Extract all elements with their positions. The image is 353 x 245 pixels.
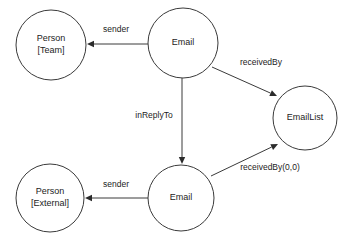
node-label-line1: Person [37, 33, 66, 43]
edge-label-sender-top: sender [103, 24, 129, 34]
node-email-list[interactable]: EmailList [273, 86, 337, 150]
edge-receivedby-00[interactable]: receivedBy(0,0) [211, 144, 300, 176]
edge-label-inreplyto: inReplyTo [135, 110, 173, 120]
edge-label-sender-bottom: sender [103, 179, 129, 189]
edge-label-receivedby: receivedBy [240, 57, 283, 67]
edge-receivedby[interactable]: receivedBy [212, 57, 283, 96]
node-email-top[interactable]: Email [148, 8, 218, 78]
arrowhead-icon [87, 41, 94, 47]
node-label-line1: Email [170, 192, 193, 202]
edge-sender-bottom[interactable]: sender [85, 179, 148, 201]
node-label-line2: [External] [31, 198, 69, 208]
node-label-line1: EmailList [287, 112, 324, 122]
edge-sender-top[interactable]: sender [87, 24, 148, 47]
node-person-team[interactable]: Person [Team] [16, 10, 86, 80]
entity-relationship-diagram: sender receivedBy inReplyTo sender recei… [0, 0, 353, 245]
node-label-line2: [Team] [37, 45, 64, 55]
node-label-line1: Person [36, 186, 65, 196]
arrowhead-icon [179, 157, 185, 164]
edge-label-receivedby-00: receivedBy(0,0) [240, 162, 300, 172]
diagram-canvas-container: sender receivedBy inReplyTo sender recei… [0, 0, 353, 245]
node-person-external[interactable]: Person [External] [16, 164, 84, 232]
edge-inreplyto[interactable]: inReplyTo [135, 78, 185, 164]
node-label-line1: Email [172, 37, 195, 47]
node-email-bottom[interactable]: Email [148, 165, 214, 231]
edge-line [212, 67, 271, 93]
arrowhead-icon [85, 195, 92, 201]
